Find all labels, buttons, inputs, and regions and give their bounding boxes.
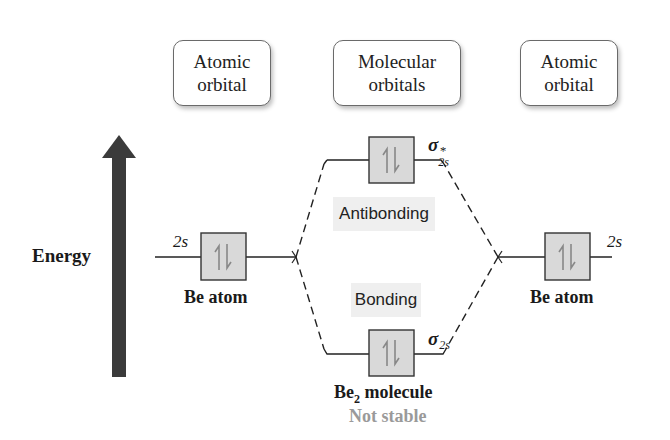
right-atom-label: Be atom bbox=[530, 287, 593, 308]
antibonding-mo-box bbox=[369, 137, 414, 183]
energy-axis-label: Energy bbox=[32, 245, 91, 267]
right-ao-box bbox=[545, 233, 590, 280]
left-orbital-label: 2s bbox=[173, 232, 188, 252]
bonding-mo-box bbox=[369, 330, 414, 376]
bonding-symbol: σ2s bbox=[428, 328, 450, 350]
stability-status: Not stable bbox=[349, 406, 427, 427]
antibonding-symbol: σ*2s bbox=[428, 134, 454, 156]
correlation-lines bbox=[296, 164, 498, 349]
right-orbital-label: 2s bbox=[607, 232, 622, 252]
left-atom-label: Be atom bbox=[184, 287, 247, 308]
molecule-label: Be2 molecule bbox=[334, 382, 432, 403]
energy-arrow-icon bbox=[102, 135, 136, 377]
energy-level-diagram bbox=[0, 0, 670, 440]
left-ao-box bbox=[201, 233, 246, 280]
